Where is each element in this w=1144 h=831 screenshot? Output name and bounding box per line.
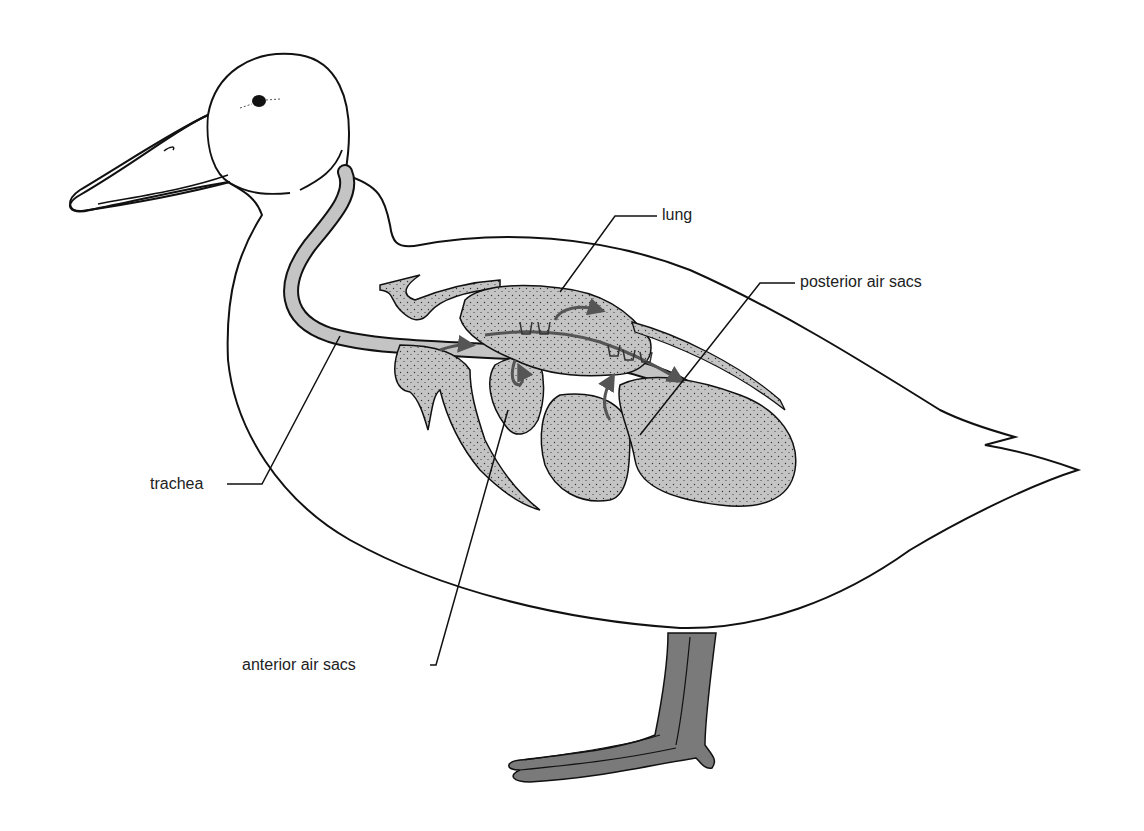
eye xyxy=(252,95,266,107)
label-trachea: trachea xyxy=(150,476,203,492)
label-posterior-air-sacs: posterior air sacs xyxy=(800,274,922,290)
label-anterior-air-sacs: anterior air sacs xyxy=(242,657,356,673)
duck-respiratory-diagram xyxy=(0,0,1144,831)
label-lung: lung xyxy=(662,207,692,223)
